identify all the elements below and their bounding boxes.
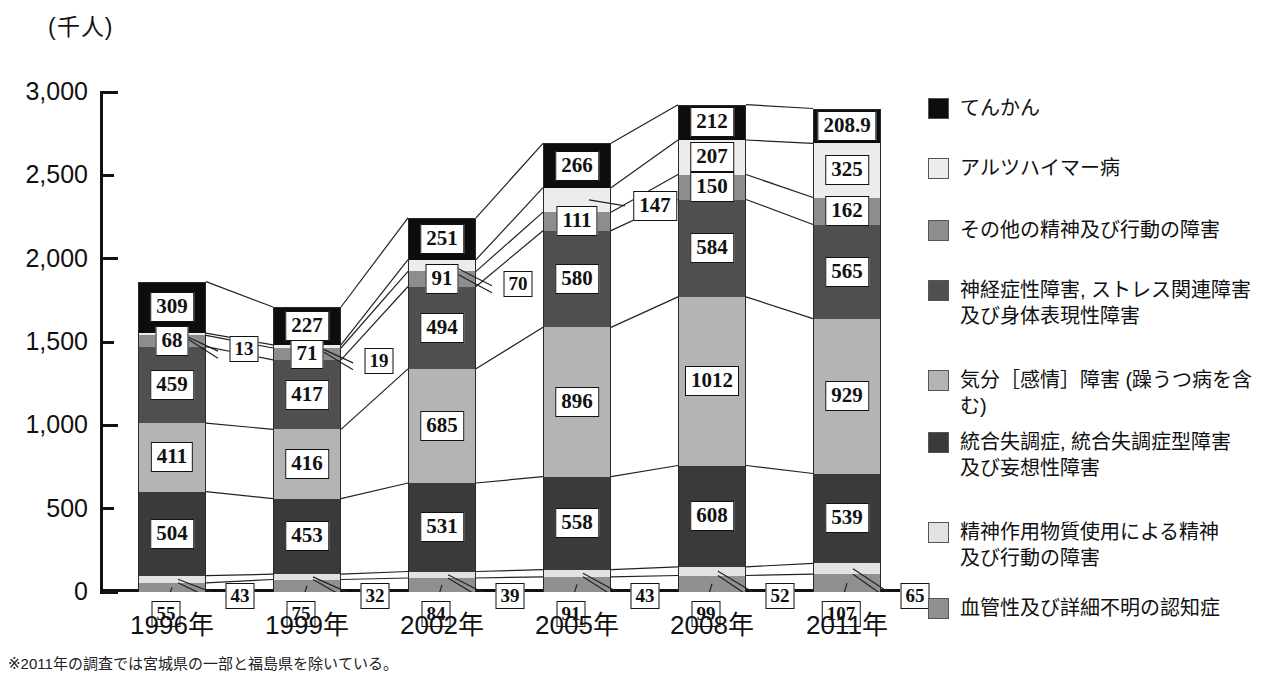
value-label-epilepsy-2008年: 212: [690, 107, 734, 137]
value-label-mood-2005年: 896: [555, 387, 599, 417]
value-label-epilepsy-1999年: 227: [285, 311, 329, 341]
segment-substance-1996年: [138, 576, 206, 583]
legend-item-neurotic[interactable]: 神経症性障害, ストレス関連障害 及び身体表現性障害: [928, 278, 1251, 329]
value-label-neurotic-2002年: 494: [420, 313, 464, 343]
legend-label-other-mental: その他の精神及び行動の障害: [960, 218, 1220, 244]
plot-area: 5543504411459681330975324534164177119227…: [100, 92, 900, 592]
value-label-schizophrenia-2002年: 531: [420, 512, 464, 542]
legend-item-alzheimer[interactable]: アルツハイマー病: [928, 156, 1120, 182]
legend-item-mood[interactable]: 気分［感情］障害 (躁うつ病を含む): [928, 368, 1269, 419]
y-tick: [100, 424, 118, 427]
legend-item-other-mental[interactable]: その他の精神及び行動の障害: [928, 218, 1220, 244]
y-tick-label: 0: [0, 577, 88, 606]
segment-vascular-dementia-1999年: [273, 580, 341, 593]
y-tick-label: 1,000: [0, 410, 88, 439]
y-tick-label: 500: [0, 494, 88, 523]
value-label-alzheimer-2008年: 207: [690, 142, 734, 172]
segment-vascular-dementia-2005年: [543, 577, 611, 592]
value-label-schizophrenia-2008年: 608: [690, 501, 734, 531]
legend-item-schizophrenia[interactable]: 統合失調症, 統合失調症型障害 及び妄想性障害: [928, 430, 1231, 481]
x-axis-label-2002年: 2002年: [377, 604, 507, 641]
value-label-alzheimer-2002年: 70: [504, 271, 533, 297]
value-label-mood-2002年: 685: [420, 411, 464, 441]
legend-item-epilepsy[interactable]: てんかん: [928, 96, 1040, 122]
value-label-schizophrenia-2005年: 558: [555, 508, 599, 538]
value-label-neurotic-2005年: 580: [555, 264, 599, 294]
y-tick-label: 3,000: [0, 77, 88, 106]
legend-swatch-schizophrenia-icon: [928, 432, 949, 453]
value-label-epilepsy-1996年: 309: [150, 292, 194, 322]
value-label-epilepsy-2011年: 208.9: [817, 111, 876, 141]
value-label-alzheimer-2005年: 147: [633, 191, 677, 221]
legend-item-substance[interactable]: 精神作用物質使用による精神 及び行動の障害: [928, 520, 1219, 571]
value-label-other-mental-2008年: 150: [690, 172, 734, 202]
legend-swatch-vascular-dementia-icon: [928, 598, 949, 619]
legend-label-schizophrenia: 統合失調症, 統合失調症型障害 及び妄想性障害: [960, 430, 1231, 481]
value-label-other-mental-1996年: 68: [156, 326, 189, 356]
x-axis-label-1999年: 1999年: [242, 604, 372, 641]
y-tick: [100, 591, 118, 594]
legend-label-substance: 精神作用物質使用による精神 及び行動の障害: [960, 520, 1219, 571]
leader-lines: [100, 92, 900, 592]
value-label-neurotic-2008年: 584: [690, 233, 734, 263]
value-label-schizophrenia-1996年: 504: [150, 519, 194, 549]
legend-swatch-alzheimer-icon: [928, 158, 949, 179]
legend-label-mood: 気分［感情］障害 (躁うつ病を含む): [960, 368, 1269, 419]
footnote: ※2011年の調査では宮城県の一部と福島県を除いている。: [8, 652, 398, 673]
legend-item-vascular-dementia[interactable]: 血管性及び詳細不明の認知症: [928, 596, 1220, 622]
segment-vascular-dementia-2011年: [813, 574, 881, 592]
legend-swatch-substance-icon: [928, 522, 949, 543]
value-label-alzheimer-2011年: 325: [825, 155, 869, 185]
value-label-other-mental-2002年: 91: [426, 264, 459, 294]
segment-substance-2011年: [813, 563, 881, 574]
legend-label-epilepsy: てんかん: [960, 96, 1040, 122]
y-tick: [100, 257, 118, 260]
x-axis-label-2008年: 2008年: [647, 604, 777, 641]
y-tick-label: 1,500: [0, 327, 88, 356]
value-label-epilepsy-2005年: 266: [555, 151, 599, 181]
value-label-other-mental-2005年: 111: [556, 206, 597, 236]
y-axis-unit-label: (千人): [48, 8, 113, 42]
legend-label-alzheimer: アルツハイマー病: [960, 156, 1120, 182]
value-label-other-mental-1999年: 71: [291, 339, 324, 369]
value-label-alzheimer-1999年: 19: [365, 348, 394, 374]
value-label-alzheimer-1996年: 13: [230, 336, 259, 362]
value-label-epilepsy-2002年: 251: [420, 224, 464, 254]
value-label-neurotic-1999年: 417: [285, 380, 329, 410]
value-label-neurotic-1996年: 459: [150, 370, 194, 400]
segment-vascular-dementia-2002年: [408, 578, 476, 592]
legend-swatch-other-mental-icon: [928, 220, 949, 241]
legend-label-neurotic: 神経症性障害, ストレス関連障害 及び身体表現性障害: [960, 278, 1251, 329]
value-label-schizophrenia-1999年: 453: [285, 521, 329, 551]
y-tick: [100, 91, 118, 94]
y-tick-label: 2,500: [0, 160, 88, 189]
x-axis-label-1996年: 1996年: [107, 604, 237, 641]
y-tick: [100, 341, 114, 344]
x-axis-label-2005年: 2005年: [512, 604, 642, 641]
y-tick: [100, 507, 114, 510]
value-label-other-mental-2011年: 162: [825, 196, 869, 226]
legend-swatch-mood-icon: [928, 370, 949, 391]
value-label-mood-2011年: 929: [825, 381, 869, 411]
value-label-mood-1996年: 411: [151, 442, 193, 472]
y-tick-label: 2,000: [0, 244, 88, 273]
value-label-neurotic-2011年: 565: [825, 257, 869, 287]
y-tick: [100, 174, 114, 177]
segment-vascular-dementia-2008年: [678, 576, 746, 593]
legend-swatch-epilepsy-icon: [928, 98, 949, 119]
segment-vascular-dementia-1996年: [138, 583, 206, 592]
value-label-mood-1999年: 416: [285, 449, 329, 479]
segment-substance-2008年: [678, 567, 746, 576]
legend-label-vascular-dementia: 血管性及び詳細不明の認知症: [960, 596, 1220, 622]
segment-substance-2005年: [543, 570, 611, 577]
value-label-mood-2008年: 1012: [685, 366, 739, 396]
value-label-schizophrenia-2011年: 539: [825, 503, 869, 533]
legend-swatch-neurotic-icon: [928, 280, 949, 301]
x-axis-label-2011年: 2011年: [782, 604, 912, 641]
